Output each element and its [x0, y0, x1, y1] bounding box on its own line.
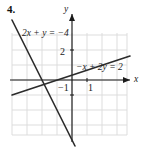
tick-label-x-1: 1 — [88, 83, 93, 93]
x-axis-label: x — [134, 74, 138, 84]
y-axis-label: y — [64, 4, 68, 14]
tick-label-y-2: 2 — [60, 47, 65, 57]
problem-number: 4. — [7, 4, 15, 15]
tick-label-y-negative-1: −1 — [58, 83, 69, 93]
equation-label-2: −x + 2y = 2 — [76, 62, 123, 72]
coordinate-plane-svg — [0, 0, 147, 147]
equation-label-1: 2x + y = −4 — [22, 28, 69, 38]
